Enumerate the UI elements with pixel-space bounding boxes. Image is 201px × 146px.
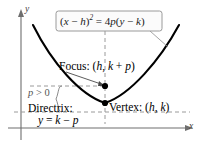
focus-leader-line: [66, 72, 101, 84]
focus-label-prefix: Focus: (: [59, 60, 96, 72]
vertex-label: Vertex: (h, k): [109, 101, 169, 113]
directrix-eq-equals: =: [43, 114, 55, 126]
focus-label: Focus: (h, k + p): [59, 60, 135, 72]
p-condition-rest: > 0: [33, 87, 49, 98]
vertex-point: [102, 100, 108, 106]
x-axis: [8, 125, 193, 131]
directrix-label-word: Directrix:: [28, 102, 73, 114]
directrix-eq-p: p: [73, 114, 79, 126]
directrix-eq-minus: −: [60, 114, 72, 126]
eq-minus1: −: [69, 15, 81, 27]
y-axis: [18, 9, 24, 140]
focus-label-plus: +: [113, 60, 125, 72]
vertex-label-close: ): [166, 101, 170, 113]
x-axis-label: x: [189, 122, 193, 132]
focus-label-close: ): [131, 60, 135, 72]
parabola-figure: (x − h)2 = 4p(y − k) Focus: (h, k + p) V…: [0, 0, 201, 146]
p-greater-than-zero-label: p > 0: [28, 87, 50, 98]
vertex-label-prefix: Vertex: (: [109, 101, 149, 113]
eq-minus2: −: [124, 15, 136, 27]
y-axis-label: y: [25, 5, 29, 15]
callout-leader-line: [150, 31, 168, 47]
eq-equals: = 4: [93, 15, 110, 27]
directrix-equation: y = k − p: [38, 114, 78, 126]
equation-callout-text: (x − h)2 = 4p(y − k): [60, 14, 145, 27]
focus-point: [102, 83, 108, 89]
eq-close2: ): [141, 15, 145, 27]
directrix-label: Directrix:: [28, 102, 73, 114]
